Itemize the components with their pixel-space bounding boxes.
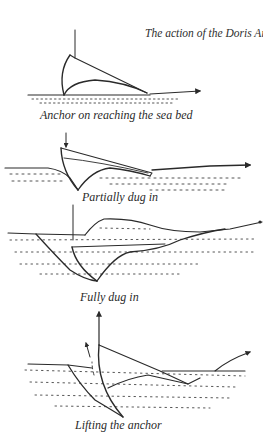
- anchor-diagram: [0, 0, 263, 435]
- stage-lifting-label: Lifting the anchor: [75, 418, 162, 433]
- stage-lifting-drawing: [25, 312, 250, 417]
- stage-seabed-label: Anchor on reaching the sea bed: [40, 108, 193, 123]
- stage-seabed-drawing: [28, 30, 200, 103]
- stage-partial-drawing: [5, 133, 250, 190]
- stage-partial-label: Partially dug in: [82, 190, 158, 205]
- stage-full-drawing: [8, 205, 262, 281]
- stage-full-label: Fully dug in: [80, 290, 139, 305]
